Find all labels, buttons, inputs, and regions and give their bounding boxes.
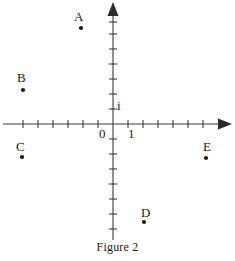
data-point-d [142,220,146,224]
real-axis-arrowhead [218,119,232,130]
data-point-a [79,26,83,30]
data-point-c [20,155,24,159]
point-label-a: A [74,10,83,23]
point-label-b: B [17,71,26,84]
point-label-c: C [16,140,25,153]
data-point-b [21,88,25,92]
figure-caption: Figure 2 [0,240,235,255]
figure-container: A B C D E 0 1 i Figure 2 [0,0,235,261]
complex-plane-plot [0,0,235,261]
imaginary-axis-arrowhead [108,2,119,16]
axis-label-real-unit: 1 [128,127,135,140]
point-label-e: E [203,140,211,153]
data-point-e [204,156,208,160]
axis-label-origin: 0 [99,127,106,140]
point-label-d: D [141,206,150,219]
axis-label-imaginary-unit: i [117,99,121,112]
